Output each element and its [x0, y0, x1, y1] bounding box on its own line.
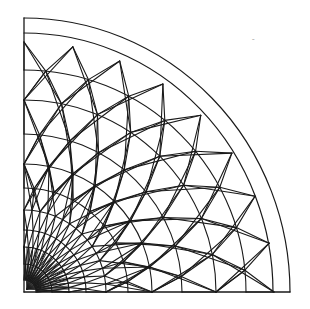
lamella-member [99, 120, 165, 152]
lamella-member [201, 153, 232, 218]
lamella-member [175, 246, 245, 270]
diagonal-member [32, 210, 33, 230]
diagonal-member [86, 284, 106, 289]
lamella-member [163, 151, 195, 217]
lamella-member [104, 170, 124, 226]
lamella-member [124, 218, 164, 262]
lamella-member [175, 187, 220, 246]
outer-rim-arc [24, 18, 290, 292]
diagonal-member [27, 210, 32, 230]
diagonal-members [24, 42, 274, 292]
diagonal-member [69, 288, 86, 289]
stray-mark: ˉ [252, 37, 255, 46]
lamella-member [70, 96, 129, 141]
lamella-member [150, 219, 202, 268]
diagonal-member [61, 224, 70, 242]
lamella-member [49, 115, 98, 167]
frame-lines [24, 18, 290, 292]
diagonal-member [27, 230, 28, 247]
diagonal-member [45, 236, 50, 252]
diagonal-member [85, 283, 105, 284]
lamella-member [90, 153, 99, 212]
lamella-member [104, 218, 163, 227]
diagonal-member [64, 266, 80, 271]
lamella-member [54, 153, 98, 193]
lamella-member [98, 84, 163, 115]
lamella-member [131, 115, 201, 132]
lamella-member [181, 228, 236, 277]
lamella-member [90, 192, 146, 212]
diagonal-member [56, 220, 63, 239]
diagonal-member [74, 246, 92, 255]
lattice-svg: ˉ [0, 0, 310, 309]
lamella-member [184, 115, 201, 185]
lamella-member [40, 80, 89, 135]
rim-arcs [24, 18, 290, 292]
dome-lattice-diagram: ˉ [0, 0, 310, 309]
diagonal-member [77, 253, 96, 260]
lamella-member [46, 71, 70, 141]
